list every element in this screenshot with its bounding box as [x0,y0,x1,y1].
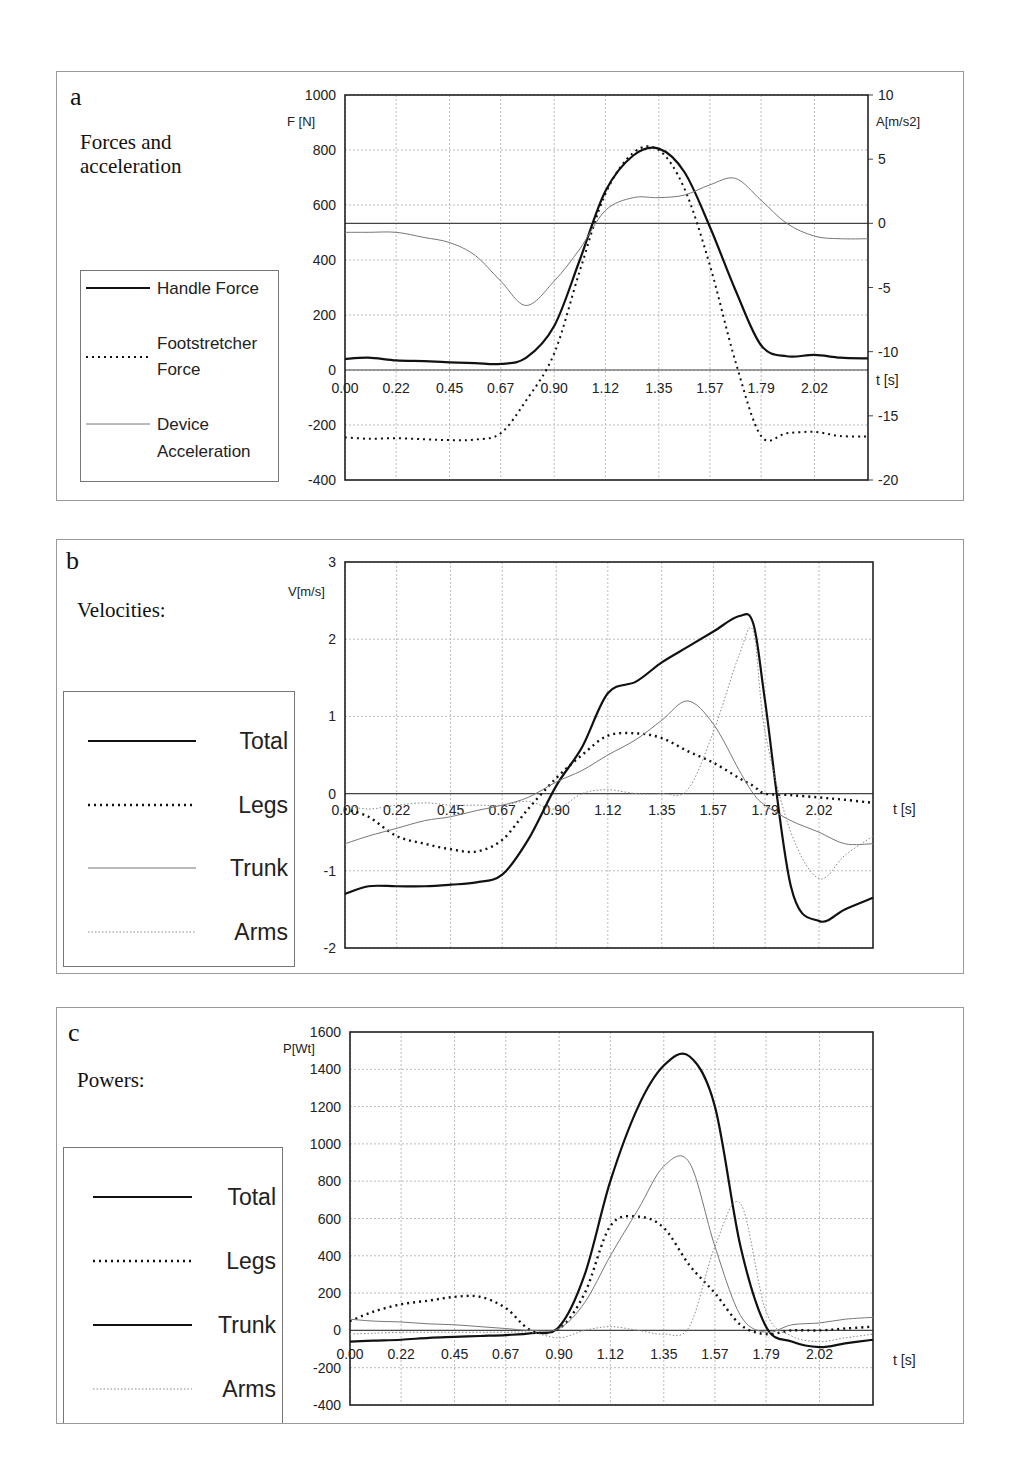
y-tick-label: -2 [324,940,337,956]
series-line [350,1054,873,1348]
legend-label: Arms [234,919,288,945]
x-tick-label: 0.45 [436,380,463,396]
y-tick-label: 400 [313,252,337,268]
y-tick-label: -1 [324,863,337,879]
legend-label: Total [239,728,288,754]
y-tick-label: 800 [313,142,337,158]
x-tick-label: 0.22 [383,802,410,818]
y-axis-label: V[m/s] [288,584,325,599]
x-tick-label: 1.79 [747,380,774,396]
legend-label: Legs [226,1248,276,1274]
x-tick-label: 0.45 [437,802,464,818]
x-tick-label: 0.22 [388,1346,415,1362]
x-tick-label: 1.57 [701,1346,728,1362]
series-line [350,1156,873,1333]
y2-tick-label: -5 [878,280,891,296]
y-tick-label: 400 [318,1248,342,1264]
x-tick-label: 1.12 [594,802,621,818]
y-tick-label: -400 [308,472,336,488]
y-tick-label: 1 [328,708,336,724]
x-tick-label: 1.79 [752,1346,779,1362]
series-line [345,701,873,845]
x-tick-label: 1.12 [592,380,619,396]
y-tick-label: 600 [318,1211,342,1227]
y-tick-label: 1200 [310,1099,341,1115]
y-axis-label: F [N] [287,114,315,129]
x-tick-label: 2.02 [801,380,828,396]
y-tick-label: 800 [318,1173,342,1189]
x-tick-label: 1.35 [645,380,672,396]
y-tick-label: 3 [328,554,336,570]
series-line [350,1216,873,1334]
y-tick-label: -400 [313,1397,341,1413]
charts-svg: 10008006004002000-200-4000.000.220.450.6… [0,0,1016,1461]
legend-label: Force [157,360,200,379]
series-line [345,178,868,306]
series-line [345,148,868,365]
x-axis-label: t [s] [876,372,899,388]
legend-label: Total [227,1184,276,1210]
x-axis-label: t [s] [893,801,916,817]
y2-axis-label: A[m/s2] [876,114,920,129]
x-tick-label: 0.90 [546,1346,573,1362]
legend-label: Trunk [218,1312,276,1338]
x-tick-label: 0.22 [383,380,410,396]
y2-tick-label: 5 [878,151,886,167]
y-tick-label: 600 [313,197,337,213]
x-tick-label: 0.45 [441,1346,468,1362]
y2-tick-label: 10 [878,87,894,103]
y-tick-label: 0 [333,1322,341,1338]
y-axis-label: P[Wt] [283,1041,315,1056]
x-tick-label: 2.02 [805,802,832,818]
y-tick-label: 200 [313,307,337,323]
legend-label: Footstretcher [157,334,257,353]
y-tick-label: 1000 [305,87,336,103]
x-tick-label: 1.57 [696,380,723,396]
x-tick-label: 1.57 [700,802,727,818]
y-tick-label: 200 [318,1285,342,1301]
y2-tick-label: -10 [878,344,898,360]
x-tick-label: 1.35 [648,802,675,818]
y-tick-label: -200 [313,1360,341,1376]
x-tick-label: 1.79 [751,802,778,818]
series-line [350,1201,873,1341]
legend-label: Acceleration [157,442,251,461]
x-tick-label: 1.12 [597,1346,624,1362]
y-tick-label: 1400 [310,1061,341,1077]
y-tick-label: 0 [328,362,336,378]
x-tick-label: 0.67 [487,380,514,396]
x-tick-label: 0.67 [492,1346,519,1362]
y2-tick-label: 0 [878,215,886,231]
legend-label: Handle Force [157,279,259,298]
y-tick-label: 0 [328,786,336,802]
series-line [345,627,873,879]
x-tick-label: 0.67 [489,802,516,818]
y-tick-label: 1600 [310,1024,341,1040]
x-axis-label: t [s] [893,1352,916,1368]
x-tick-label: 0.90 [541,380,568,396]
x-tick-label: 1.35 [650,1346,677,1362]
legend-label: Trunk [230,855,288,881]
x-tick-label: 2.02 [806,1346,833,1362]
series-line [345,614,873,922]
series-line [345,733,873,852]
y-tick-label: -200 [308,417,336,433]
y-tick-label: 1000 [310,1136,341,1152]
legend-label: Legs [238,792,288,818]
y2-tick-label: -15 [878,408,898,424]
y2-tick-label: -20 [878,472,898,488]
legend-label: Arms [222,1376,276,1402]
y-tick-label: 2 [328,631,336,647]
legend-label: Device [157,415,209,434]
